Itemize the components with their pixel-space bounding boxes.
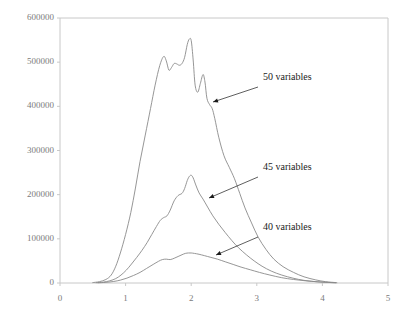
annotation-arrowhead-0 xyxy=(213,98,218,102)
series-line-40-variables xyxy=(98,253,337,283)
chart-annotation-layer xyxy=(209,87,258,255)
y-axis-label-3: 300000 xyxy=(0,145,54,155)
annotation-label-40-variables: 40 variables xyxy=(263,221,312,232)
x-axis-label-0: 0 xyxy=(40,293,80,303)
annotation-leader-line-1 xyxy=(209,177,258,198)
annotation-leader-line-2 xyxy=(216,237,258,255)
y-axis-label-4: 400000 xyxy=(0,100,54,110)
chart-container: 0100000200000300000400000500000600000 01… xyxy=(0,0,403,313)
y-axis-label-0: 0 xyxy=(0,277,54,287)
x-axis-label-4: 4 xyxy=(302,293,342,303)
x-axis-label-3: 3 xyxy=(237,293,277,303)
y-axis-label-6: 600000 xyxy=(0,12,54,22)
x-axis-label-2: 2 xyxy=(171,293,211,303)
chart-plot-area xyxy=(0,0,403,313)
annotation-label-45-variables: 45 variables xyxy=(263,161,312,172)
annotation-label-50-variables: 50 variables xyxy=(263,71,312,82)
y-axis-label-1: 100000 xyxy=(0,233,54,243)
annotation-leader-line-0 xyxy=(213,87,258,102)
x-axis-label-5: 5 xyxy=(368,293,403,303)
x-axis-label-1: 1 xyxy=(106,293,146,303)
y-axis-label-2: 200000 xyxy=(0,189,54,199)
y-axis-label-5: 500000 xyxy=(0,56,54,66)
